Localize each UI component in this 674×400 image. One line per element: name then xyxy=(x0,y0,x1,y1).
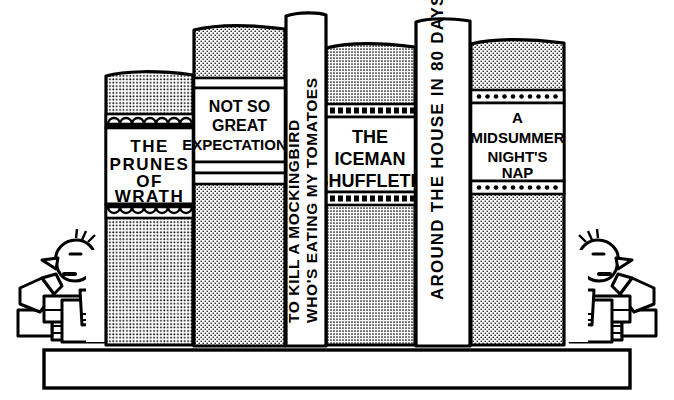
book6-title-line-2: MIDSUMMER xyxy=(470,129,564,146)
book5-title-line-1: AROUND THE HOUSE IN 80 DAYS xyxy=(428,0,447,300)
book-around-the-house-in-80-days: AROUND THE HOUSE IN 80 DAYS xyxy=(416,0,470,346)
book-a-midsummer-nights-nap: A MIDSUMMER NIGHT'S NAP xyxy=(470,40,564,345)
bookshelf-plank xyxy=(44,350,630,388)
book6-title-line-4: NAP xyxy=(502,164,534,181)
book-to-kill-a-mockingbird: TO KILL A MOCKINGBIRD WHO'S EATING MY TO… xyxy=(285,13,326,346)
cartoon-illustration: A MIDSUMMER NIGHT'S NAP THE ICEMAN SHUFF… xyxy=(0,0,674,400)
book3-title-line-2: WHO'S EATING MY TOMATOES xyxy=(303,77,320,323)
book-prunes-of-wrath: THE PRUNES OF WRATH xyxy=(106,72,193,345)
book2-title-line-2: GREAT xyxy=(212,117,267,134)
book1-title-line-1: THE xyxy=(130,137,169,156)
book-not-so-great-expectations: NOT SO GREAT EXPECTATIONS xyxy=(182,26,296,346)
book4-title-line-2: ICEMAN xyxy=(335,149,406,169)
book4-title-line-1: THE xyxy=(352,127,388,147)
book2-title-line-1: NOT SO xyxy=(209,98,270,115)
right-figure-occluder xyxy=(566,250,588,342)
book2-rule-band-2 xyxy=(194,162,285,173)
book1-title-line-4: WRATH xyxy=(115,187,185,206)
book2-title-line-3: EXPECTATIONS xyxy=(182,136,296,153)
book3-title-line-1: TO KILL A MOCKINGBIRD xyxy=(285,119,302,323)
book-the-iceman-shuffleth: THE ICEMAN SHUFFLETH xyxy=(317,44,424,345)
book2-rule-band-1 xyxy=(194,78,285,88)
book2-rule-band-3 xyxy=(194,173,285,184)
book6-title-line-3: NIGHT'S xyxy=(487,148,547,165)
book6-title-line-1: A xyxy=(512,109,523,126)
book4-title-line-3: SHUFFLETH xyxy=(317,171,424,191)
